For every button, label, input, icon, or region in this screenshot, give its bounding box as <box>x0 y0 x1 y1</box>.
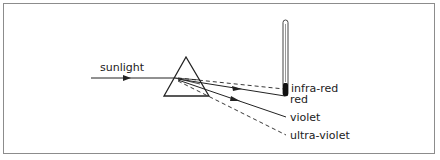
arrow-icon <box>230 96 240 101</box>
arrow-icon <box>123 75 131 81</box>
prism <box>164 57 209 96</box>
prism-diagram <box>0 0 440 160</box>
label-red: red <box>290 94 308 105</box>
thermometer <box>283 20 288 96</box>
label-sunlight: sunlight <box>100 62 144 73</box>
incident-ray <box>91 75 175 81</box>
label-ultra-violet: ultra-violet <box>290 130 350 141</box>
label-violet: violet <box>290 112 320 123</box>
ultra-violet-ray <box>178 81 286 135</box>
